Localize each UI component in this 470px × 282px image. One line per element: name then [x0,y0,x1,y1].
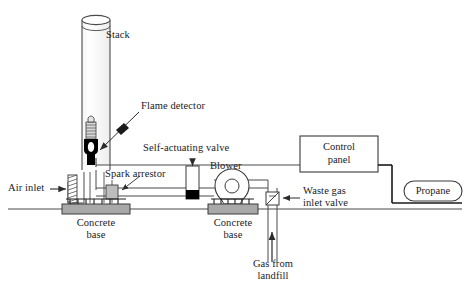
waste-gas-inlet-valve-icon [266,192,279,205]
label-waste-gas-valve-line1: Waste gas [303,185,346,197]
self-actuating-valve-icon [186,160,199,199]
label-concrete-base-left-line2: base [60,229,132,241]
label-concrete-base-left-line1: Concrete [60,217,132,229]
figure-canvas: Stack Flame detector Self-actuating valv… [0,0,470,282]
label-waste-gas-valve-line2: inlet valve [303,197,348,209]
label-gas-from-landfill-line2: landfill [238,270,308,282]
label-self-actuating-valve: Self-actuating valve [143,142,229,154]
label-blower: Blower [210,160,242,172]
label-control-panel-line2: panel [300,154,378,166]
label-propane: Propane [404,185,462,197]
label-gas-from-landfill-line1: Gas from [238,258,308,270]
label-spark-arrestor: Spark arrestor [105,168,166,180]
label-control-panel-line1: Control [300,141,378,153]
label-stack: Stack [106,29,130,41]
label-air-inlet: Air inlet [8,182,44,194]
spark-arrestor-icon [106,185,118,199]
label-concrete-base-right-line2: base [197,229,269,241]
label-concrete-base-right-line1: Concrete [197,217,269,229]
label-flame-detector: Flame detector [141,100,205,112]
